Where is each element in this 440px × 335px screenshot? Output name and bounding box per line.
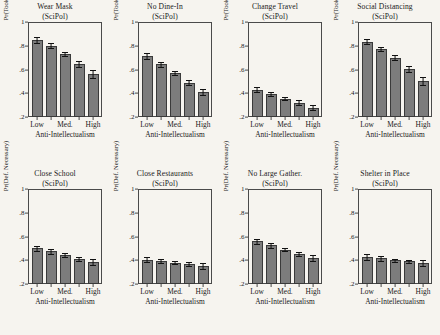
y-tick-label: 1 — [241, 19, 248, 26]
y-tick-label: .4 — [239, 90, 248, 97]
error-bar-cap — [90, 259, 96, 260]
y-tick-label: 1 — [21, 186, 28, 193]
panel-title-main: Change Travel — [252, 2, 298, 11]
error-bar-cap — [406, 260, 412, 261]
y-tick-label: .2 — [239, 114, 248, 121]
bar-slot — [88, 189, 99, 284]
error-bar-cap — [34, 43, 40, 44]
bar-slot — [32, 22, 43, 117]
bar — [266, 94, 277, 117]
chart-panel: Wear Mask(SciPol)Pr(Took Action).2.4.6.8… — [0, 0, 110, 167]
panel-title-main: Shelter in Place — [360, 169, 409, 178]
x-tick-label: Low — [360, 121, 374, 129]
error-bar-cap — [186, 80, 192, 81]
error-bar-cap — [420, 77, 426, 78]
x-tick-mark — [299, 284, 300, 287]
error-bar-cap — [420, 266, 426, 267]
error-bar-cap — [268, 96, 274, 97]
error-bar-cap — [378, 256, 384, 257]
error-bar-cap — [48, 43, 54, 44]
x-axis-label: Anti-Intellectualism — [35, 298, 95, 306]
bar-series — [138, 189, 212, 284]
panel-title: Close Restaurants(SciPol) — [110, 169, 220, 188]
error-bar-cap — [364, 39, 370, 40]
error-bar-cap — [310, 110, 316, 111]
error-bar-cap — [254, 239, 260, 240]
x-axis-label: Anti-Intellectualism — [365, 131, 425, 139]
x-axis-label: Anti-Intellectualism — [145, 298, 205, 306]
chart-panel: No Large Gather.(SciPol)Pr(Def. Necessar… — [220, 167, 330, 334]
x-tick-label: Low — [360, 288, 374, 296]
y-tick-label: 1 — [241, 186, 248, 193]
bar — [308, 258, 319, 284]
bar — [32, 40, 43, 117]
error-bar-cap — [76, 67, 82, 68]
error-bar-cap — [200, 95, 206, 96]
panel-title-subtitle: (SciPol) — [110, 12, 220, 22]
panel-title: Wear Mask(SciPol) — [0, 2, 110, 21]
bar-slot — [60, 189, 71, 284]
x-tick-label: Med. — [277, 121, 292, 129]
x-tick-label: High — [416, 288, 431, 296]
error-bar-cap — [310, 255, 316, 256]
error-bar-cap — [62, 253, 68, 254]
bar-slot — [418, 22, 429, 117]
bar — [266, 245, 277, 284]
x-tick-mark — [381, 117, 382, 120]
x-tick-label: High — [306, 288, 321, 296]
error-bar-cap — [158, 67, 164, 68]
x-tick-label: Med. — [57, 121, 72, 129]
x-tick-mark — [79, 284, 80, 287]
y-tick-label: .2 — [19, 281, 28, 288]
y-tick-label: .6 — [19, 66, 28, 73]
bar-slot — [376, 22, 387, 117]
panel-title-main: Close School — [34, 169, 76, 178]
x-tick-mark — [51, 284, 52, 287]
bar-slot — [252, 189, 263, 284]
error-bar-cap — [90, 265, 96, 266]
bar-series — [138, 22, 212, 117]
error-bar — [203, 89, 204, 96]
y-tick-label: .8 — [129, 42, 138, 49]
bar — [184, 83, 195, 117]
x-tick-mark — [409, 284, 410, 287]
y-tick-label: 1 — [131, 186, 138, 193]
error-bar-cap — [296, 100, 302, 101]
error-bar-cap — [378, 51, 384, 52]
y-axis-label: Pr(Def. Necessary) — [1, 123, 11, 209]
error-bar-cap — [364, 44, 370, 45]
y-tick-label: .8 — [349, 42, 358, 49]
bar-slot — [88, 22, 99, 117]
bar — [170, 73, 181, 117]
bar — [74, 64, 85, 117]
x-tick-label: Med. — [387, 121, 402, 129]
panel-title-main: Social Distancing — [357, 2, 412, 11]
error-bar-cap — [172, 75, 178, 76]
error-bar-cap — [200, 263, 206, 264]
x-tick-mark — [189, 284, 190, 287]
x-tick-mark — [271, 117, 272, 120]
bar — [280, 250, 291, 284]
error-bar-cap — [34, 37, 40, 38]
bar-series — [28, 189, 102, 284]
x-tick-label: Med. — [167, 121, 182, 129]
bar — [376, 258, 387, 284]
bar-slot — [390, 22, 401, 117]
y-tick-label: 1 — [351, 19, 358, 26]
bar — [362, 257, 373, 284]
bar-slot — [142, 22, 153, 117]
error-bar-cap — [76, 257, 82, 258]
bar-slot — [294, 22, 305, 117]
error-bar-cap — [34, 251, 40, 252]
bar — [280, 99, 291, 117]
y-tick-label: .6 — [239, 66, 248, 73]
y-tick-label: .8 — [19, 42, 28, 49]
error-bar-cap — [392, 60, 398, 61]
x-tick-mark — [51, 117, 52, 120]
error-bar-cap — [254, 244, 260, 245]
bar-slot — [184, 189, 195, 284]
error-bar-cap — [378, 261, 384, 262]
error-bar-cap — [392, 262, 398, 263]
bar — [376, 49, 387, 117]
bar-slot — [170, 22, 181, 117]
